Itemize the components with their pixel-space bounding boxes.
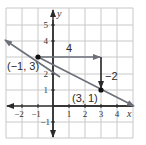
x-tick-4: 4 [115,109,120,119]
x-tick-2: 2 [83,109,88,119]
y-tick-2: 2 [44,69,49,79]
point-a [35,54,40,59]
rise-label: −2 [105,70,118,82]
y-tick-4: 4 [44,36,49,46]
x-tick-m1: −1 [31,109,41,119]
x-tick-3: 3 [99,109,104,119]
x-axis-label: x [126,108,132,119]
run-label: 4 [66,42,72,54]
point-b [98,87,103,92]
x-tick-1: 1 [67,109,72,119]
x-tick-m2: −2 [14,109,24,119]
y-tick-m1: −1 [40,117,50,127]
point-a-label: (−1, 3) [7,60,39,72]
y-axis-label: y [56,8,62,19]
coordinate-plane: 5 4 2 1 −1 −2 −1 1 2 3 4 x y 4 −2 (−1, 3… [0,0,146,145]
y-tick-5: 5 [44,20,49,30]
y-tick-1: 1 [44,85,49,95]
point-b-label: (3, 1) [72,92,98,104]
